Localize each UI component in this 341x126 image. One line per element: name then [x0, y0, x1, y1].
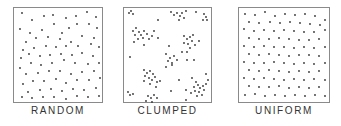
dot	[298, 70, 300, 72]
dot	[22, 49, 24, 51]
dot	[303, 46, 305, 48]
dot	[146, 72, 148, 74]
dot	[324, 19, 326, 21]
dot	[176, 59, 178, 61]
dot	[98, 62, 100, 64]
dot	[178, 79, 180, 81]
dot	[244, 13, 246, 15]
dot	[289, 21, 291, 23]
dot	[167, 60, 169, 62]
dot	[283, 46, 285, 48]
dot	[264, 95, 266, 97]
dot	[205, 73, 207, 75]
dot	[76, 23, 78, 25]
dot	[268, 86, 270, 88]
dot	[170, 90, 172, 92]
dot	[28, 53, 30, 55]
dot	[143, 69, 145, 71]
dot	[248, 37, 250, 39]
dot	[90, 43, 92, 45]
dot	[183, 42, 185, 44]
dot	[99, 77, 101, 79]
dot	[135, 27, 137, 29]
dot	[137, 38, 139, 40]
dot	[42, 96, 44, 98]
dot	[313, 63, 315, 65]
dot	[284, 95, 286, 97]
dot	[304, 95, 306, 97]
dot	[207, 79, 209, 81]
dot	[150, 97, 152, 99]
dot	[278, 37, 280, 39]
dot	[81, 52, 83, 54]
dot	[254, 93, 256, 95]
dot	[304, 13, 306, 15]
dot	[129, 56, 131, 58]
dot	[253, 46, 255, 48]
dot	[273, 46, 275, 48]
dot	[269, 21, 271, 23]
dot	[203, 89, 205, 91]
dot	[60, 53, 62, 55]
dot	[298, 39, 300, 41]
dot	[181, 12, 183, 14]
dot	[40, 64, 42, 66]
dot	[154, 76, 156, 78]
dot	[183, 35, 185, 37]
dot	[143, 44, 145, 46]
dot	[298, 54, 300, 56]
label-clumped: CLUMPED	[123, 105, 212, 116]
dot	[53, 23, 55, 25]
dot	[243, 61, 245, 63]
dot	[194, 44, 196, 46]
plot-box-clumped	[123, 7, 212, 103]
dot	[273, 78, 275, 80]
dot	[156, 97, 158, 99]
dot	[53, 96, 55, 98]
label-random: RANDOM	[13, 105, 103, 116]
dot	[19, 28, 21, 30]
dot	[187, 43, 189, 45]
dot	[50, 88, 52, 90]
dot	[196, 95, 198, 97]
dot	[151, 101, 153, 103]
dot	[55, 46, 57, 48]
dot	[314, 15, 316, 17]
dot	[55, 78, 57, 80]
dot	[303, 31, 305, 33]
dot	[268, 53, 270, 55]
dot	[93, 70, 95, 72]
dot	[278, 70, 280, 72]
dot	[313, 78, 315, 80]
dot	[171, 62, 173, 64]
dot	[65, 98, 67, 100]
dot	[19, 67, 21, 69]
dot	[203, 13, 205, 15]
dot	[148, 77, 150, 79]
dot	[77, 45, 79, 47]
dot	[195, 81, 197, 83]
dot	[313, 31, 315, 33]
dot	[194, 90, 196, 92]
dot	[45, 45, 47, 47]
dot	[92, 55, 94, 57]
dot	[324, 46, 326, 48]
dot	[303, 62, 305, 64]
dot	[288, 38, 290, 40]
dot	[189, 47, 191, 49]
dot	[191, 40, 193, 42]
dot	[189, 36, 191, 38]
dot	[268, 69, 270, 71]
dot	[253, 78, 255, 80]
dot	[185, 89, 187, 91]
dot	[294, 14, 296, 16]
dot	[192, 34, 194, 36]
dot	[293, 47, 295, 49]
dot	[149, 83, 151, 85]
dot	[263, 77, 265, 79]
dot	[143, 80, 145, 82]
dot	[248, 85, 250, 87]
dot	[195, 11, 197, 13]
dot	[324, 95, 326, 97]
dot-field-random	[14, 8, 104, 104]
